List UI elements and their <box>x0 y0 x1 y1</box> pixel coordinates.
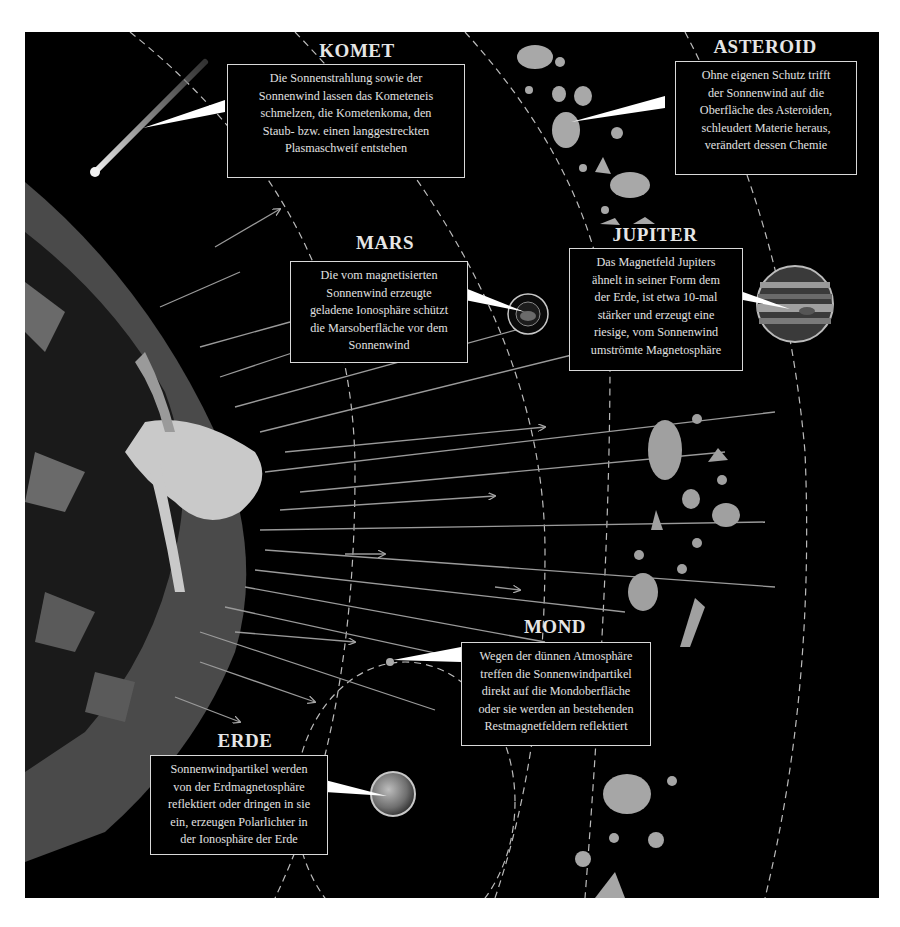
erde-text-line: Sonnenwindpartikel werden <box>157 761 321 779</box>
mond-title: MOND <box>505 616 605 638</box>
earth-planet-icon <box>325 772 415 816</box>
erde-text-line: ein, erzeugen Polarlichter in <box>157 814 321 832</box>
asteroid-text-line: der Sonnenwind auf die <box>682 85 850 103</box>
asteroid-belt-middle <box>628 414 740 647</box>
jupiter-text-line: der Erde, ist etwa 10-mal <box>576 289 736 307</box>
komet-text-line: Die Sonnenstrahlung sowie der <box>234 70 458 88</box>
asteroid-callout: Ohne eigenen Schutz trifft der Sonnenwin… <box>675 61 857 175</box>
mond-text-line: Restmagnetfeldern reflektiert <box>468 718 644 736</box>
jupiter-title: JUPITER <box>595 224 715 246</box>
erde-text-line: der Ionosphäre der Erde <box>157 831 321 849</box>
mars-text-line: Sonnenwind <box>297 337 461 355</box>
jupiter-text-line: umströmte Magnetosphäre <box>576 342 736 360</box>
erde-text-line: reflektiert oder dringen in sie <box>157 796 321 814</box>
jupiter-callout: Das Magnetfeld Jupiters ähnelt in seiner… <box>569 248 743 371</box>
mond-callout: Wegen der dünnen Atmosphäre treffen die … <box>461 642 651 746</box>
erde-text-line: von der Erdmagnetosphäre <box>157 779 321 797</box>
jupiter-planet-icon <box>743 266 833 342</box>
comet-icon <box>90 62 225 177</box>
jupiter-text-line: riesige, vom Sonnenwind <box>576 324 736 342</box>
mond-text-line: treffen die Sonnenwindpartikel <box>468 666 644 684</box>
mars-text-line: die Marsoberfläche vor dem <box>297 320 461 338</box>
mars-text-line: Die vom magnetisierten <box>297 267 461 285</box>
mond-text-line: direkt auf die Mondoberfläche <box>468 683 644 701</box>
mars-text-line: Sonnenwind erzeugte <box>297 285 461 303</box>
erde-callout: Sonnenwindpartikel werden von der Erdmag… <box>150 755 328 855</box>
asteroid-text-line: Oberfläche des Asteroiden, <box>682 102 850 120</box>
komet-text-line: schmelzen, die Kometenkoma, den <box>234 105 458 123</box>
mond-text-line: Wegen der dünnen Atmosphäre <box>468 648 644 666</box>
komet-title: KOMET <box>287 40 427 62</box>
solar-wind-diagram: KOMET Die Sonnenstrahlung sowie der Sonn… <box>25 32 879 898</box>
mond-text-line: oder sie werden an bestehenden <box>468 701 644 719</box>
jupiter-text-line: ähnelt in seiner Form dem <box>576 272 736 290</box>
asteroid-text-line: schleudert Materie heraus, <box>682 120 850 138</box>
mars-title: MARS <box>335 232 435 254</box>
asteroid-text-line: verändert dessen Chemie <box>682 137 850 155</box>
asteroid-belt-top <box>517 45 665 225</box>
jupiter-text-line: Das Magnetfeld Jupiters <box>576 254 736 272</box>
erde-title: ERDE <box>195 730 295 752</box>
jupiter-text-line: stärker und erzeugt eine <box>576 307 736 325</box>
asteroid-belt-bottom <box>575 774 677 898</box>
komet-text-line: Sonnenwind lassen das Kometeneis <box>234 88 458 106</box>
mars-callout: Die vom magnetisierten Sonnenwind erzeug… <box>290 261 468 363</box>
mars-planet-icon <box>465 288 548 334</box>
asteroid-text-line: Ohne eigenen Schutz trifft <box>682 67 850 85</box>
asteroid-title: ASTEROID <box>685 36 845 58</box>
mars-text-line: geladene Ionosphäre schützt <box>297 302 461 320</box>
komet-callout: Die Sonnenstrahlung sowie der Sonnenwind… <box>227 64 465 178</box>
komet-text-line: Plasmaschweif entstehen <box>234 140 458 158</box>
komet-text-line: Staub- bzw. einen langgestreckten <box>234 123 458 141</box>
